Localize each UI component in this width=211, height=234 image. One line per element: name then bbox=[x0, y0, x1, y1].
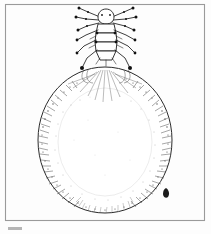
illustration-canvas bbox=[0, 0, 211, 234]
ovisac-group bbox=[38, 67, 172, 213]
insect-abdomen-tip bbox=[96, 51, 116, 60]
insect-thorax-1 bbox=[96, 24, 116, 33]
scan-artifact bbox=[8, 227, 22, 230]
insect-thorax-2 bbox=[95, 33, 117, 42]
figure-plate bbox=[0, 0, 211, 234]
insect-abdomen-1 bbox=[95, 42, 117, 51]
insect-head bbox=[98, 9, 114, 24]
